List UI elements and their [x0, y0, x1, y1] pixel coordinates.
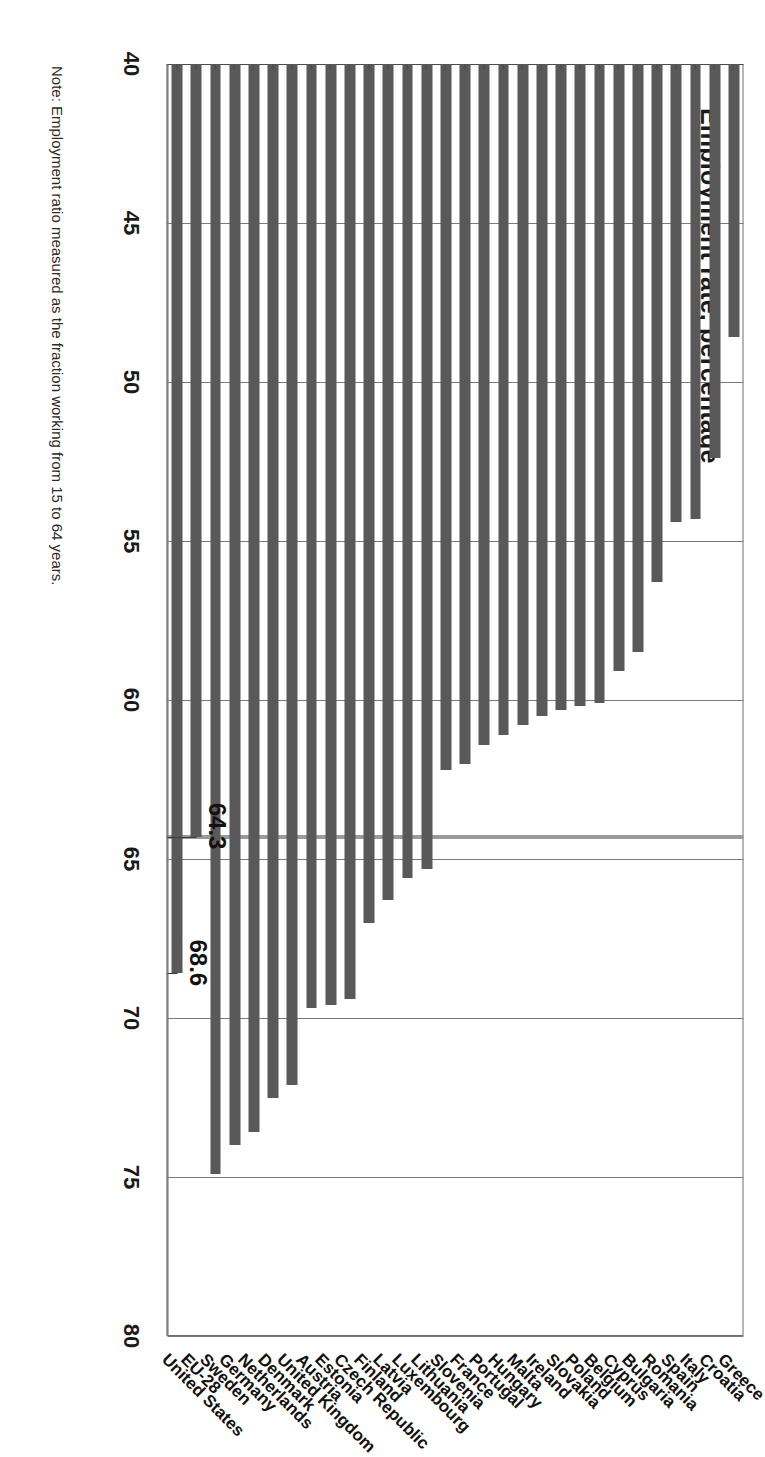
bar-bulgaria: [632, 64, 643, 652]
bar-row: [344, 64, 355, 1336]
category-tick: [387, 64, 388, 70]
value-tick-label: 75: [117, 1165, 143, 1189]
bar-estonia: [325, 64, 336, 1005]
bar-malta: [517, 64, 528, 725]
bar-row: [210, 64, 221, 1336]
category-tick: [252, 64, 253, 70]
bar-row: [651, 64, 662, 1336]
bar-slovenia: [440, 64, 451, 770]
bar-row: [382, 64, 393, 1336]
category-tick: [732, 64, 733, 70]
bar-row: [517, 64, 528, 1336]
category-tick: [214, 64, 215, 70]
category-axis-line: [166, 64, 167, 1336]
category-tick: [291, 64, 292, 70]
bar-row: [498, 64, 509, 1336]
bar-row: [286, 64, 297, 1336]
bar-row: [574, 64, 585, 1336]
category-tick: [444, 64, 445, 70]
bar-row: [267, 64, 278, 1336]
category-tick: [368, 64, 369, 70]
category-tick: [694, 64, 695, 70]
bar-france: [459, 64, 470, 764]
category-tick: [272, 64, 273, 70]
bar-sweden: [210, 64, 221, 1174]
bar-belgium: [594, 64, 605, 703]
bar-finland: [363, 64, 374, 923]
bar-row: [709, 64, 720, 1336]
category-tick: [233, 64, 234, 70]
bar-germany: [229, 64, 240, 1145]
gridline-80: [167, 1336, 743, 1337]
bar-row: [190, 64, 201, 1336]
bar-row: [171, 64, 182, 1336]
value-tick-label: 45: [117, 211, 143, 235]
category-tick: [521, 64, 522, 70]
bar-row: [402, 64, 413, 1336]
bar-poland: [574, 64, 585, 706]
bar-italy: [690, 64, 701, 519]
bar-denmark: [267, 64, 278, 1098]
category-tick: [675, 64, 676, 70]
bar-row: [325, 64, 336, 1336]
category-tick: [560, 64, 561, 70]
category-tick: [425, 64, 426, 70]
category-tick: [713, 64, 714, 70]
category-tick: [540, 64, 541, 70]
category-tick: [348, 64, 349, 70]
value-tick-label: 80: [117, 1324, 143, 1348]
callout-leader-line: [167, 837, 196, 838]
bar-row: [478, 64, 489, 1336]
bar-czech-republic: [344, 64, 355, 999]
category-tick: [195, 64, 196, 70]
value-tick-label: 65: [117, 847, 143, 871]
bar-row: [613, 64, 624, 1336]
category-tick: [656, 64, 657, 70]
category-tick: [483, 64, 484, 70]
category-tick: [636, 64, 637, 70]
bar-row: [459, 64, 470, 1336]
bar-cyprus: [613, 64, 624, 671]
bar-row: [670, 64, 681, 1336]
category-tick: [329, 64, 330, 70]
bar-hungary: [498, 64, 509, 735]
bar-row: [440, 64, 451, 1336]
category-tick: [406, 64, 407, 70]
bar-netherlands: [248, 64, 259, 1132]
callout-leader-line: [167, 973, 177, 974]
chart-footnote: Note: Employment ratio measured as the f…: [48, 66, 65, 585]
category-tick: [176, 64, 177, 70]
bar-luxembourg: [402, 64, 413, 878]
bar-spain: [670, 64, 681, 522]
bar-row: [632, 64, 643, 1336]
bar-row: [690, 64, 701, 1336]
bar-portugal: [478, 64, 489, 745]
bar-row: [363, 64, 374, 1336]
bar-row: [421, 64, 432, 1336]
bar-romania: [651, 64, 662, 582]
bar-row: [248, 64, 259, 1336]
bar-united-kingdom: [286, 64, 297, 1085]
bar-row: [229, 64, 240, 1336]
bar-row: [594, 64, 605, 1336]
bar-series: [167, 64, 743, 1336]
category-tick: [502, 64, 503, 70]
bar-croatia: [709, 64, 720, 458]
category-tick: [579, 64, 580, 70]
value-tick-label: 50: [117, 370, 143, 394]
value-tick-label: 60: [117, 688, 143, 712]
category-tick: [464, 64, 465, 70]
bar-austria: [306, 64, 317, 1008]
bar-lithuania: [421, 64, 432, 869]
callout-value-64-3: 64.3: [202, 803, 230, 850]
bar-eu-28: [190, 64, 201, 837]
bar-greece: [728, 64, 739, 337]
value-tick-label: 40: [117, 52, 143, 76]
bar-row: [555, 64, 566, 1336]
value-tick-label: 55: [117, 529, 143, 553]
bar-row: [536, 64, 547, 1336]
value-tick-label: 70: [117, 1006, 143, 1030]
callout-value-68-6: 68.6: [183, 939, 211, 986]
